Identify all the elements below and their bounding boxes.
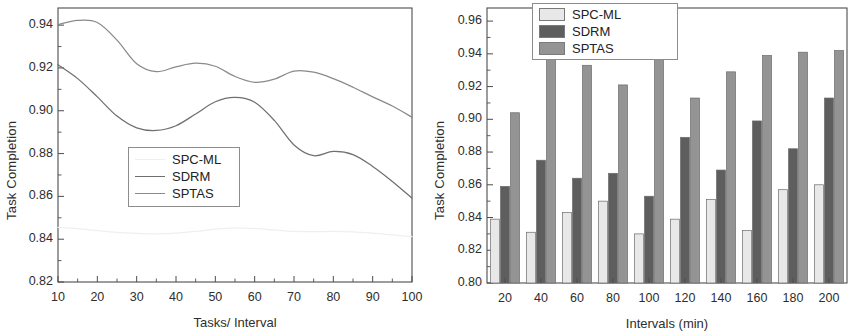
x-tick-label: 40: [521, 291, 561, 305]
y-tick-label: 0.80: [440, 275, 482, 289]
y-tick-label: 0.82: [440, 242, 482, 256]
y-tick-label: 0.90: [440, 111, 482, 125]
x-tick-label: 180: [773, 291, 813, 305]
legend-item-sdrm[interactable]: SDRM: [533, 23, 677, 40]
y-tick-label: 0.94: [440, 46, 482, 60]
y-tick-label: 0.92: [12, 60, 53, 74]
x-tick-label: 200: [809, 291, 849, 305]
legend-label: SDRM: [572, 25, 610, 38]
figure-container: Task Completion Tasks/ Interval SPC-MLSD…: [0, 0, 854, 335]
x-tick-label: 40: [156, 290, 196, 304]
bar-chart-legend: SPC-MLSDRMSPTAS: [532, 3, 678, 60]
y-tick-label: 0.96: [440, 13, 482, 27]
legend-item-sdrm[interactable]: SDRM: [129, 168, 239, 185]
y-tick-label: 0.88: [440, 144, 482, 158]
x-tick-label: 50: [195, 290, 235, 304]
legend-item-sptas[interactable]: SPTAS: [129, 185, 239, 202]
line-chart-legend: SPC-MLSDRMSPTAS: [128, 147, 240, 207]
legend-label: SPC-ML: [572, 8, 621, 21]
legend-line-icon: [135, 159, 165, 160]
legend-swatch-icon: [539, 8, 565, 21]
y-tick-label: 0.86: [440, 177, 482, 191]
x-tick-label: 100: [629, 291, 669, 305]
y-tick-label: 0.94: [12, 17, 53, 31]
x-tick-label: 60: [235, 290, 275, 304]
x-tick-label: 80: [313, 290, 353, 304]
x-tick-label: 30: [117, 290, 157, 304]
y-tick-label: 0.84: [440, 210, 482, 224]
legend-line-icon: [135, 176, 165, 177]
left-x-axis-title: Tasks/ Interval: [58, 315, 412, 330]
line-chart-panel: Task Completion Tasks/ Interval SPC-MLSD…: [0, 0, 427, 335]
x-tick-label: 60: [557, 291, 597, 305]
legend-line-icon: [135, 193, 165, 194]
y-tick-label: 0.86: [12, 188, 53, 202]
x-tick-label: 160: [737, 291, 777, 305]
x-tick-label: 140: [701, 291, 741, 305]
bar-chart-panel: Task Completion Intervals (min) SPC-MLSD…: [427, 0, 854, 335]
x-tick-label: 90: [353, 290, 393, 304]
y-tick-label: 0.92: [440, 79, 482, 93]
legend-item-spc-ml[interactable]: SPC-ML: [129, 151, 239, 168]
y-tick-label: 0.90: [12, 103, 53, 117]
legend-label: SPTAS: [172, 187, 214, 200]
legend-label: SPC-ML: [172, 153, 221, 166]
legend-label: SDRM: [172, 170, 210, 183]
right-x-axis-title: Intervals (min): [487, 316, 847, 331]
x-tick-label: 20: [485, 291, 525, 305]
y-tick-label: 0.82: [12, 274, 53, 288]
x-tick-label: 100: [392, 290, 432, 304]
legend-swatch-icon: [539, 42, 565, 55]
x-tick-label: 20: [77, 290, 117, 304]
legend-item-spc-ml[interactable]: SPC-ML: [533, 6, 677, 23]
y-tick-label: 0.88: [12, 146, 53, 160]
y-tick-label: 0.84: [12, 231, 53, 245]
legend-label: SPTAS: [572, 42, 614, 55]
legend-swatch-icon: [539, 25, 565, 38]
x-tick-label: 70: [274, 290, 314, 304]
legend-item-sptas[interactable]: SPTAS: [533, 40, 677, 57]
x-tick-label: 120: [665, 291, 705, 305]
x-tick-label: 10: [38, 290, 78, 304]
x-tick-label: 80: [593, 291, 633, 305]
